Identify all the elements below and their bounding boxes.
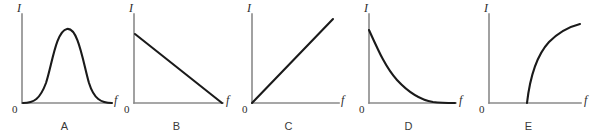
panel-b-axes	[134, 14, 223, 103]
panel-e-axes	[489, 14, 581, 103]
y-axis-label: I	[16, 1, 22, 15]
curve-e	[527, 24, 580, 103]
panel-b: I f 0 B	[117, 0, 236, 135]
y-axis-label: I	[363, 1, 369, 15]
panel-caption-d: D	[349, 120, 468, 132]
panel-c-plot: I f 0	[229, 0, 348, 118]
origin-label: 0	[479, 103, 485, 115]
curve-b	[135, 34, 222, 103]
panel-e-plot: I f 0	[469, 0, 594, 118]
panel-caption-b: B	[117, 120, 236, 132]
panel-caption-a: A	[5, 120, 124, 132]
panel-d: I f 0 D	[349, 0, 468, 135]
y-axis-label: I	[483, 1, 489, 15]
origin-label: 0	[359, 103, 365, 115]
panel-c: I f 0 C	[229, 0, 348, 135]
x-axis-label: f	[584, 93, 589, 107]
x-axis-label: f	[341, 93, 346, 107]
curve-a	[23, 29, 112, 103]
y-axis-label: I	[246, 1, 252, 15]
panel-b-plot: I f 0	[117, 0, 236, 118]
x-axis-label: f	[459, 93, 464, 107]
panel-d-plot: I f 0	[349, 0, 468, 118]
figure-root: I f 0 A I f 0 B I f 0	[0, 0, 598, 135]
panel-e: I f 0 E	[469, 0, 588, 135]
origin-label: 0	[242, 103, 248, 115]
panel-a-axes	[22, 14, 111, 103]
origin-label: 0	[124, 103, 130, 115]
y-axis-label: I	[128, 1, 134, 15]
panel-a: I f 0 A	[5, 0, 124, 135]
panel-caption-e: E	[469, 120, 588, 132]
curve-c	[252, 19, 333, 103]
curve-d	[369, 30, 455, 103]
panel-a-plot: I f 0	[5, 0, 124, 118]
panel-caption-c: C	[229, 120, 348, 132]
origin-label: 0	[12, 103, 18, 115]
